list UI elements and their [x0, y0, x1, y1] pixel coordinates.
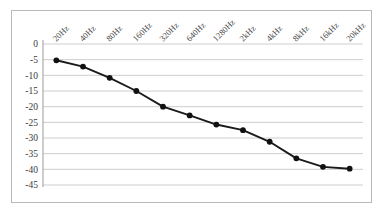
y-axis-tick-label: -40	[25, 165, 38, 175]
x-axis-tick-label: 20kHz	[344, 20, 367, 43]
data-point	[240, 127, 246, 133]
y-axis-tick-label: -15	[25, 86, 38, 96]
data-point	[213, 122, 219, 128]
y-axis-tick-label: 0	[33, 39, 38, 49]
y-axis-tick-label: -5	[30, 55, 38, 65]
x-axis-tick-label: 1280Hz	[211, 17, 237, 43]
y-axis-tick-label: -45	[25, 180, 38, 190]
x-axis-tick-label: 320Hz	[157, 20, 180, 43]
data-point	[107, 75, 113, 81]
x-axis-tick-label: 8kHz	[291, 23, 311, 43]
data-point	[267, 139, 273, 145]
chart-container: 0-5-10-15-20-25-30-35-40-4520Hz40Hz80Hz1…	[11, 10, 372, 203]
x-axis-tick-label: 640Hz	[184, 20, 207, 43]
data-point	[160, 104, 166, 110]
data-point	[80, 64, 86, 70]
x-axis-tick-label: 40Hz	[77, 23, 97, 43]
line-chart: 0-5-10-15-20-25-30-35-40-4520Hz40Hz80Hz1…	[12, 11, 371, 202]
x-axis-tick-label: 2kHz	[237, 23, 257, 43]
data-point	[293, 155, 299, 161]
x-axis-tick-label: 20Hz	[51, 23, 71, 43]
data-point	[347, 166, 353, 172]
data-point	[320, 164, 326, 170]
plot-area: 0-5-10-15-20-25-30-35-40-4520Hz40Hz80Hz1…	[12, 11, 371, 202]
data-point	[53, 57, 59, 63]
y-axis-tick-label: -20	[25, 102, 38, 112]
x-axis-tick-label: 4kHz	[264, 23, 284, 43]
x-axis-tick-label: 160Hz	[131, 20, 154, 43]
y-axis-tick-label: -30	[25, 133, 38, 143]
x-axis-tick-label: 16kHz	[317, 20, 340, 43]
data-point	[133, 88, 139, 94]
y-axis-tick-label: -25	[25, 118, 38, 128]
x-axis-tick-label: 80Hz	[104, 23, 124, 43]
y-axis-tick-label: -10	[25, 71, 38, 81]
data-point	[187, 113, 193, 119]
y-axis-tick-label: -35	[25, 149, 38, 159]
series-line	[56, 60, 349, 168]
